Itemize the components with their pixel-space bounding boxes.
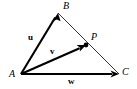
point-label-a: A	[9, 69, 15, 79]
vector-label-u: u	[28, 33, 33, 42]
vector-diagram-figure: A B C P u v w	[0, 0, 137, 89]
point-label-b: B	[63, 1, 69, 11]
point-label-p: P	[91, 32, 97, 42]
point-p-dot	[84, 43, 89, 48]
vector-label-v: v	[50, 47, 55, 56]
point-label-c: C	[122, 67, 129, 77]
vector-label-w: w	[68, 77, 75, 86]
edge-bc-line	[58, 13, 119, 74]
